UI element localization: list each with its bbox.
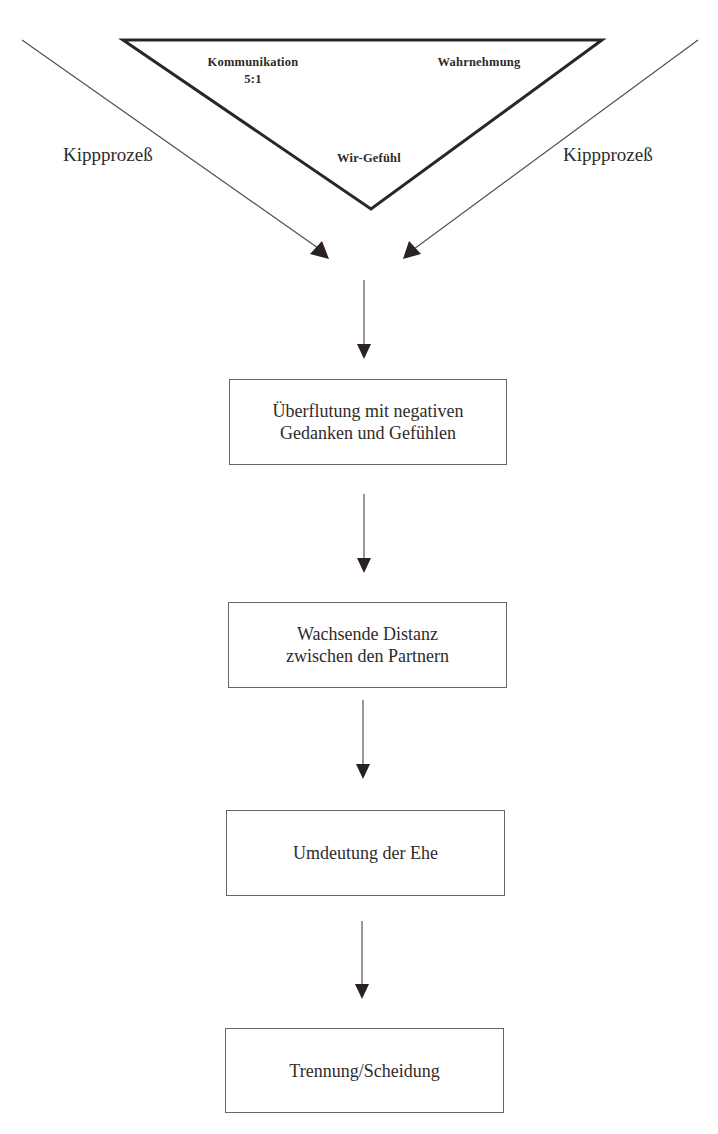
step-box-flooding: Überflutung mit negativen Gedanken und G… <box>229 379 507 465</box>
communication-label: Kommunikation <box>208 55 299 69</box>
diagram-canvas: Kommunikation 5:1 Wahrnehmung Wir-Gefühl… <box>0 0 718 1134</box>
triangle-label-perception: Wahrnehmung <box>430 54 528 71</box>
flow-arrow-1 <box>357 280 371 359</box>
triangle-label-communication: Kommunikation 5:1 <box>198 54 308 88</box>
left-tipping-process-label: Kippprozeß <box>63 144 153 166</box>
right-tipping-process-label: Kippprozeß <box>563 144 653 166</box>
flow-arrow-3 <box>356 700 370 779</box>
down-arrowhead-icon <box>357 558 371 573</box>
step-2-line-2: zwischen den Partnern <box>286 645 449 667</box>
flow-arrow-4 <box>355 921 369 999</box>
step-box-separation: Trennung/Scheidung <box>225 1028 504 1113</box>
right-tipping-arrow-line <box>414 40 698 249</box>
down-arrowhead-icon <box>355 984 369 999</box>
flow-arrow-2 <box>357 494 371 573</box>
relationship-triangle <box>123 40 602 209</box>
diagram-lines <box>0 0 718 1134</box>
step-box-growing-distance: Wachsende Distanz zwischen den Partnern <box>228 602 507 688</box>
down-arrowhead-icon <box>357 344 371 359</box>
step-2-line-1: Wachsende Distanz <box>286 623 449 645</box>
down-arrowhead-icon <box>356 764 370 779</box>
triangle-label-we-feeling: Wir-Gefühl <box>330 150 408 167</box>
step-4-line-1: Trennung/Scheidung <box>289 1060 439 1082</box>
step-box-reinterpretation: Umdeutung der Ehe <box>226 810 505 896</box>
right-tipping-arrowhead-icon <box>403 241 421 259</box>
communication-ratio: 5:1 <box>244 72 261 86</box>
step-1-line-1: Überflutung mit negativen <box>273 400 464 422</box>
step-1-line-2: Gedanken und Gefühlen <box>273 422 464 444</box>
step-3-line-1: Umdeutung der Ehe <box>293 842 438 864</box>
